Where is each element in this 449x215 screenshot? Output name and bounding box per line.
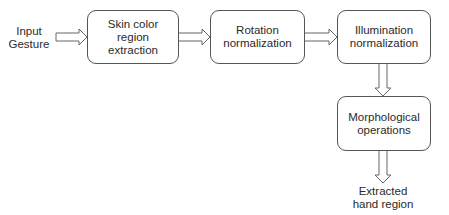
arrow-skin-to-rotation: [178, 29, 210, 45]
node-skin-color-extraction: Skin color region extraction: [87, 10, 179, 64]
arrow-morph-to-output: [375, 150, 391, 183]
arrow-illumination-to-morph: [375, 63, 391, 96]
node-illumination-normalization: Illumination normalization: [337, 10, 431, 64]
input-gesture-label: Input Gesture: [4, 25, 54, 51]
arrow-input-to-skin: [56, 29, 87, 45]
arrow-rotation-to-illumination: [304, 29, 337, 45]
node-rotation-normalization: Rotation normalization: [210, 10, 305, 64]
node-morphological-operations: Morphological operations: [337, 96, 431, 151]
extracted-hand-region-label: Extracted hand region: [343, 185, 423, 211]
